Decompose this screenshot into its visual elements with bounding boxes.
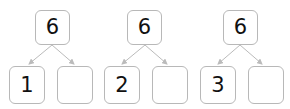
part-left-box: 1 [9,66,45,104]
whole-value: 6 [234,17,247,38]
number-bond-1: 6 1 [0,0,95,109]
number-bond-3: 6 3 [191,0,286,109]
whole-box: 6 [127,10,162,45]
whole-value: 6 [138,17,151,38]
part-left-box: 2 [104,66,140,104]
whole-box: 6 [35,10,70,45]
part-left-value: 3 [211,75,224,96]
part-left-value: 2 [115,75,128,96]
part-right-box[interactable] [248,66,284,104]
whole-box: 6 [223,10,258,45]
part-right-box[interactable] [152,66,188,104]
whole-value: 6 [46,17,59,38]
part-left-value: 1 [20,75,33,96]
part-right-box[interactable] [57,66,93,104]
part-left-box: 3 [200,66,236,104]
number-bond-2: 6 2 [95,0,190,109]
